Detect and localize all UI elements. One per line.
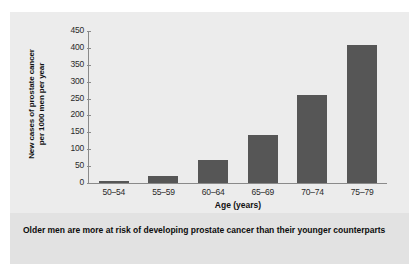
y-axis-title: New cases of prostate cancer per 1000 me… xyxy=(17,32,57,177)
bar[interactable] xyxy=(148,176,178,183)
x-axis-tick-label: 70–74 xyxy=(288,187,338,197)
y-axis-tick: 400 xyxy=(10,48,94,49)
figure-caption: Older men are more at risk of developing… xyxy=(23,224,395,237)
caption-panel: Older men are more at risk of developing… xyxy=(10,213,409,264)
x-axis-title: Age (years) xyxy=(89,200,387,210)
bar[interactable] xyxy=(347,45,377,183)
y-axis-tick-label: 300 xyxy=(70,76,84,86)
bar[interactable] xyxy=(297,95,327,183)
bar-slot xyxy=(238,31,288,183)
y-axis-tick: 200 xyxy=(10,115,94,116)
figure-container: New cases of prostate cancer per 1000 me… xyxy=(10,12,409,264)
y-axis-tick: 350 xyxy=(10,65,94,66)
y-axis-tick-label: 450 xyxy=(70,25,84,35)
y-axis-tick-label: 400 xyxy=(70,42,84,52)
x-axis-tick-label: 60–64 xyxy=(188,187,238,197)
y-axis-tick-label: 100 xyxy=(70,143,84,153)
y-axis-tick: 0 xyxy=(10,183,94,184)
y-axis-tick: 100 xyxy=(10,149,94,150)
x-axis-tick-label: 65–69 xyxy=(238,187,288,197)
bar-slot xyxy=(188,31,238,183)
y-axis-tick-mark xyxy=(87,183,91,184)
bar[interactable] xyxy=(248,135,278,183)
x-axis-tick-label: 55–59 xyxy=(139,187,189,197)
y-axis-tick-label: 250 xyxy=(70,93,84,103)
y-axis-tick: 450 xyxy=(10,31,94,32)
y-axis-tick-label: 50 xyxy=(75,160,84,170)
y-axis-tick-label: 150 xyxy=(70,126,84,136)
bar-slot xyxy=(89,31,139,183)
bar[interactable] xyxy=(198,160,228,183)
x-axis-tick-label: 50–54 xyxy=(89,187,139,197)
bar-series xyxy=(89,31,387,183)
y-axis-tick-label: 200 xyxy=(70,109,84,119)
x-axis-line xyxy=(88,183,387,184)
y-axis-tick: 300 xyxy=(10,82,94,83)
y-axis-tick: 250 xyxy=(10,99,94,100)
y-axis-tick: 50 xyxy=(10,166,94,167)
bar-slot xyxy=(139,31,189,183)
y-axis-tick: 150 xyxy=(10,132,94,133)
bar-slot xyxy=(337,31,387,183)
x-axis-tick-label: 75–79 xyxy=(337,187,387,197)
x-axis-ticks: 50–5455–5960–6465–6970–7475–79 xyxy=(89,187,387,201)
bar[interactable] xyxy=(99,181,129,183)
chart-panel: New cases of prostate cancer per 1000 me… xyxy=(10,12,409,213)
bar-slot xyxy=(288,31,338,183)
y-axis-tick-label: 0 xyxy=(79,177,84,187)
y-axis-tick-label: 350 xyxy=(70,59,84,69)
